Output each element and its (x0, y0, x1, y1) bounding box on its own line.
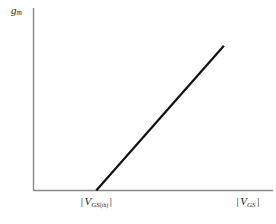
threshold-subscript: GS (91, 201, 100, 209)
y-axis-label: gm (11, 5, 22, 17)
figure-container: gm |VGS(th)| |VGS| (0, 0, 276, 224)
x-axis-label: |VGS| (235, 196, 261, 209)
threshold-voltage-label: |VGS(th)| (79, 196, 113, 209)
threshold-bar-close: | (108, 195, 113, 207)
transconductance-curve (96, 46, 224, 191)
plot-canvas (0, 0, 276, 224)
x-axis-bar-close: | (256, 195, 261, 207)
y-axis-label-subscript: m (17, 8, 23, 17)
x-axis-label-subscript: GS (247, 201, 256, 209)
x-axis-label-variable: V (240, 195, 247, 207)
